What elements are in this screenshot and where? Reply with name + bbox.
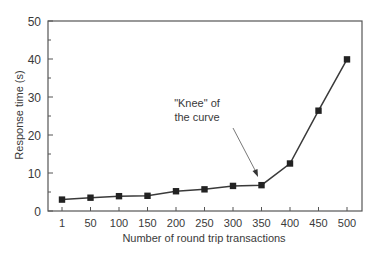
y-tick-label: 30 — [28, 91, 42, 105]
square-marker-icon — [116, 193, 122, 199]
square-marker-icon — [230, 183, 236, 189]
square-marker-icon — [258, 182, 264, 188]
y-tick-label: 10 — [28, 167, 42, 181]
knee-annotation: "Knee" of the curve — [174, 97, 258, 177]
square-marker-icon — [144, 193, 150, 199]
x-tick-label: 450 — [309, 217, 327, 229]
arrowhead-icon — [253, 169, 259, 177]
y-tick-label: 40 — [28, 53, 42, 67]
x-tick-label: 100 — [110, 217, 128, 229]
response-time-line — [62, 59, 347, 199]
square-marker-icon — [201, 186, 207, 192]
y-axis: 01020304050 — [28, 15, 53, 219]
x-tick-label: 1 — [59, 217, 65, 229]
x-tick-label: 300 — [224, 217, 242, 229]
x-tick-label: 150 — [138, 217, 156, 229]
square-marker-icon — [59, 196, 65, 202]
square-marker-icon — [344, 56, 350, 62]
square-marker-icon — [87, 195, 93, 201]
annotation-text-line-1: "Knee" of — [174, 97, 221, 109]
x-tick-label: 50 — [84, 217, 96, 229]
x-tick-label: 250 — [195, 217, 213, 229]
annotation-arrow-icon — [233, 128, 256, 172]
y-tick-label: 50 — [28, 15, 42, 29]
x-tick-label: 500 — [338, 217, 356, 229]
square-marker-icon — [315, 107, 321, 113]
y-axis-label: Response time (s) — [13, 70, 25, 159]
square-marker-icon — [173, 188, 179, 194]
x-tick-label: 400 — [281, 217, 299, 229]
data-series-markers — [59, 56, 350, 203]
annotation-text-line-2: the curve — [174, 111, 219, 123]
x-tick-label: 350 — [252, 217, 270, 229]
y-tick-label: 20 — [28, 129, 42, 143]
x-axis-label: Number of round trip transactions — [122, 232, 286, 244]
data-series-line — [62, 59, 347, 199]
x-axis: 150100150200250300350400450500 — [59, 207, 356, 229]
square-marker-icon — [287, 160, 293, 166]
x-tick-label: 200 — [167, 217, 185, 229]
y-tick-label: 0 — [34, 205, 41, 219]
response-time-chart: 01020304050 1501001502002503003504004505… — [0, 0, 377, 257]
